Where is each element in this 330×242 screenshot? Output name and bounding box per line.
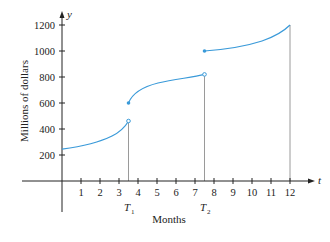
curves [62,25,290,149]
x-tick-label: 7 [192,187,197,198]
x-tick-label: 1 [78,187,83,198]
y-tick-label: 800 [39,72,55,83]
x-tick-label: 5 [154,187,159,198]
curve-segment-2 [129,74,205,103]
x-tick-label: 10 [247,187,258,198]
x-tick-label: 12 [285,187,296,198]
y-tick-label: 600 [39,98,55,109]
axes [22,14,312,212]
t1-label: T 1 [124,201,135,216]
curve-segment-1 [62,121,129,149]
x-tick-label: 8 [211,187,216,198]
drop-lines [129,25,291,181]
x-tick-label: 3 [116,187,121,198]
x-axis-arrow-icon [308,179,315,184]
x-tick-label: 6 [173,187,178,198]
filled-dot-marker [203,49,207,53]
y-axis-symbol: y [66,8,72,20]
x-tick-label: 4 [135,187,141,198]
y-tick-label: 400 [39,124,55,135]
open-circle-marker [203,73,207,77]
svg-text:1: 1 [131,208,135,216]
x-tick-label: 9 [230,187,235,198]
y-tick-label: 1000 [34,46,55,57]
chart: 200 400 600 800 1000 1200 1 2 3 4 5 6 7 … [0,0,330,242]
t-axis-symbol: t [318,174,322,186]
open-circle-marker [127,119,131,123]
y-axis-arrow-icon [60,11,65,18]
y-tick-label: 1200 [34,20,55,31]
t2-label: T 2 [200,201,211,216]
svg-text:T: T [200,201,207,213]
x-tick-label: 2 [97,187,102,198]
x-tick-label: 11 [266,187,276,198]
x-tick-labels: 1 2 3 4 5 6 7 8 9 10 11 12 [78,187,295,198]
x-axis-title: Months [152,213,186,225]
curve-segment-3 [205,25,291,51]
y-tick-labels: 200 400 600 800 1000 1200 [34,20,55,161]
svg-text:T: T [124,201,131,213]
y-axis-title: Millions of dollars [18,60,30,142]
y-tick-label: 200 [39,150,55,161]
svg-text:2: 2 [207,208,211,216]
filled-dot-marker [127,101,131,105]
